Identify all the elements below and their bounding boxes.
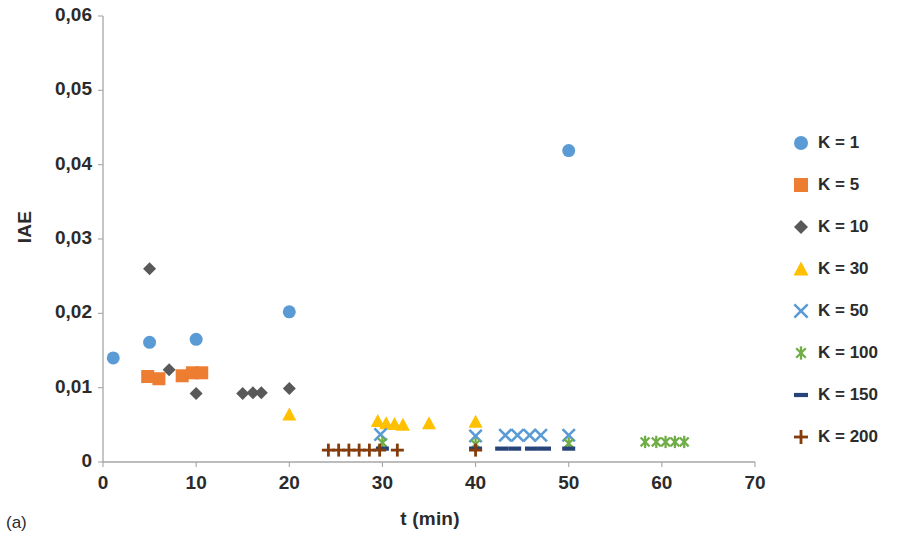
legend-label: K = 200 [818, 427, 878, 447]
legend-label: K = 150 [818, 385, 878, 405]
legend-item-k-200[interactable]: K = 200 [790, 416, 900, 458]
data-point [652, 436, 661, 448]
data-point [195, 366, 208, 379]
x-tick-label: 60 [651, 472, 672, 494]
data-point [152, 372, 165, 385]
square-marker-icon [790, 174, 812, 196]
data-point [641, 436, 650, 448]
legend-label: K = 1 [818, 133, 859, 153]
legend-item-k-5[interactable]: K = 5 [790, 164, 900, 206]
legend-item-k-150[interactable]: K = 150 [790, 374, 900, 416]
y-tick-label: 0,06 [55, 4, 92, 26]
asterisk-marker-icon [790, 342, 812, 364]
panel-label: (a) [6, 513, 27, 533]
series-k-1 [107, 144, 575, 364]
data-points-group [107, 144, 689, 457]
chart-legend: K = 1K = 5K = 10K = 30K = 50K = 100K = 1… [790, 122, 900, 458]
x-marker-icon [790, 300, 812, 322]
data-point [190, 387, 203, 400]
data-point [391, 444, 404, 457]
data-point [535, 429, 547, 441]
data-point [143, 262, 156, 275]
y-tick-label: 0 [81, 450, 92, 472]
y-tick-label: 0,02 [55, 301, 92, 323]
legend-label: K = 5 [818, 175, 859, 195]
legend-label: K = 30 [818, 259, 869, 279]
data-point [422, 416, 436, 429]
data-point [282, 407, 296, 420]
y-tick-label: 0,05 [55, 78, 92, 100]
data-point [283, 305, 296, 318]
chart-figure: 00,010,020,030,040,050,06 01020304050607… [0, 0, 903, 551]
legend-label: K = 100 [818, 343, 878, 363]
data-point [511, 429, 523, 441]
dash-marker-icon [790, 384, 812, 406]
data-point [283, 382, 296, 395]
circle-marker-icon [790, 132, 812, 154]
y-tick-label: 0,01 [55, 376, 92, 398]
x-tick-label: 10 [186, 472, 207, 494]
data-point [499, 429, 511, 441]
data-point [523, 429, 535, 441]
plus-marker-icon [790, 426, 812, 448]
legend-item-k-30[interactable]: K = 30 [790, 248, 900, 290]
data-point [562, 144, 575, 157]
legend-label: K = 50 [818, 301, 869, 321]
scatter-plot-canvas [0, 0, 903, 551]
data-point [143, 336, 156, 349]
x-tick-label: 20 [279, 472, 300, 494]
legend-label: K = 10 [818, 217, 869, 237]
x-tick-label: 50 [558, 472, 579, 494]
y-axis-title: IAE [14, 197, 36, 257]
legend-item-k-10[interactable]: K = 10 [790, 206, 900, 248]
y-tick-label: 0,04 [55, 153, 92, 175]
data-point [141, 370, 154, 383]
data-point [661, 436, 670, 448]
x-tick-label: 70 [744, 472, 765, 494]
data-point [190, 333, 203, 346]
data-point [255, 386, 268, 399]
series-k-30 [282, 407, 482, 430]
y-tick-label: 0,03 [55, 227, 92, 249]
x-axis-title: t (min) [345, 508, 515, 530]
data-point [670, 436, 679, 448]
series-k-10 [143, 262, 296, 400]
diamond-marker-icon [790, 216, 812, 238]
legend-item-k-1[interactable]: K = 1 [790, 122, 900, 164]
data-point [469, 444, 482, 457]
series-k-200 [322, 444, 482, 457]
triangle-marker-icon [790, 258, 812, 280]
x-tick-label: 30 [372, 472, 393, 494]
data-point [680, 436, 689, 448]
x-tick-label: 0 [98, 472, 109, 494]
data-point [107, 351, 120, 364]
x-tick-label: 40 [465, 472, 486, 494]
legend-item-k-50[interactable]: K = 50 [790, 290, 900, 332]
data-point [469, 415, 483, 428]
legend-item-k-100[interactable]: K = 100 [790, 332, 900, 374]
